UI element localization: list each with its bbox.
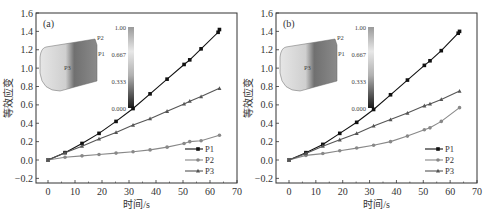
marker-circle (389, 140, 393, 144)
y-axis-label: 等效应变 (242, 78, 254, 118)
marker-square (188, 58, 192, 62)
y-tick-label: 0.2 (21, 136, 34, 147)
legend-marker-circle (196, 158, 200, 162)
colorbar (128, 27, 134, 108)
x-tick-label: 60 (205, 186, 215, 197)
x-tick-label: 40 (151, 186, 161, 197)
colorbar-tick-label: 0.000 (111, 105, 126, 112)
y-tick-label: 0.8 (261, 81, 274, 92)
y-tick-label: −0.2 (15, 173, 33, 184)
y-tick-label: 1.4 (261, 26, 274, 37)
marker-circle (338, 149, 342, 153)
marker-square (423, 64, 427, 68)
colorbar-tick-label: 0.333 (111, 78, 126, 85)
inset-point-label: P1 (98, 50, 105, 57)
legend-label: P1 (445, 144, 454, 154)
y-tick-label: 0.2 (261, 136, 274, 147)
legend-marker-square (436, 147, 440, 151)
x-tick-label: 70 (232, 186, 242, 197)
x-tick-label: 50 (178, 186, 188, 197)
y-tick-label: 1.6 (261, 8, 274, 19)
marker-circle (406, 134, 410, 138)
y-tick-label: −0.2 (255, 173, 273, 184)
marker-square (389, 93, 393, 97)
legend-label: P1 (205, 144, 214, 154)
colorbar (368, 27, 374, 108)
x-tick-label: 20 (97, 186, 107, 197)
colorbar-tick-label: 1.00 (355, 24, 366, 31)
y-tick-label: 1.0 (21, 63, 34, 74)
marker-triangle (458, 89, 462, 93)
x-tick-label: 0 (46, 186, 51, 197)
marker-circle (458, 106, 462, 110)
y-tick-label: 0.8 (21, 81, 34, 92)
marker-triangle (217, 86, 221, 90)
x-axis-label: 时间/s (363, 198, 390, 210)
inset-point-label: P1 (338, 50, 345, 57)
marker-circle (423, 128, 427, 132)
marker-square (182, 63, 186, 67)
x-axis-label: 时间/s (123, 198, 150, 210)
legend-label: P2 (205, 155, 214, 165)
y-tick-label: 1.2 (261, 44, 274, 55)
marker-circle (148, 148, 152, 152)
marker-circle (199, 139, 203, 143)
x-tick-label: 30 (365, 186, 375, 197)
marker-square (355, 121, 359, 125)
panel-label: (b) (283, 18, 295, 30)
x-tick-label: 50 (418, 186, 428, 197)
marker-circle (63, 155, 67, 159)
legend-marker-circle (436, 158, 440, 162)
legend-label: P3 (445, 166, 454, 176)
y-tick-label: 0.0 (261, 155, 274, 166)
legend-label: P2 (445, 155, 454, 165)
y-tick-label: 1.6 (21, 8, 34, 19)
marker-circle (218, 133, 222, 137)
marker-square (199, 47, 203, 51)
x-tick-label: 40 (391, 186, 401, 197)
marker-circle (97, 153, 101, 157)
x-tick-label: 60 (445, 186, 455, 197)
marker-square (428, 59, 432, 63)
marker-circle (114, 151, 118, 155)
marker-circle (80, 154, 84, 158)
marker-square (372, 108, 376, 112)
marker-circle (188, 140, 192, 144)
chart-panel-0: 010203040506070−0.20.00.20.40.60.81.01.2… (2, 8, 242, 211)
marker-square (218, 28, 222, 32)
y-tick-label: 1.2 (21, 44, 34, 55)
chart-canvas: 010203040506070−0.20.00.20.40.60.81.01.2… (0, 0, 494, 216)
x-tick-label: 70 (472, 186, 482, 197)
marker-square (114, 120, 118, 124)
y-tick-label: 0.6 (21, 99, 34, 110)
y-axis-label: 等效应变 (2, 78, 14, 118)
marker-square (439, 49, 443, 53)
y-tick-label: 0.4 (21, 118, 34, 129)
colorbar-tick-label: 0.667 (351, 51, 366, 58)
y-tick-label: 0.0 (21, 155, 34, 166)
x-tick-label: 30 (124, 186, 134, 197)
x-tick-label: 10 (70, 186, 80, 197)
marker-circle (439, 120, 443, 124)
marker-square (148, 92, 152, 96)
marker-circle (131, 150, 135, 154)
y-tick-label: 0.6 (261, 99, 274, 110)
x-tick-label: 0 (287, 186, 292, 197)
legend-marker-square (196, 147, 200, 151)
inset-point-label: P3 (304, 64, 311, 71)
x-tick-label: 20 (338, 186, 348, 197)
colorbar-tick-label: 0.667 (111, 51, 126, 58)
marker-square (131, 107, 135, 111)
inset-point-label: P2 (97, 34, 104, 41)
marker-square (97, 132, 101, 136)
series-line-P2 (289, 108, 460, 160)
x-tick-label: 10 (311, 186, 321, 197)
y-tick-label: 1.0 (261, 63, 274, 74)
marker-square (458, 30, 462, 34)
legend-label: P3 (205, 166, 214, 176)
chart-panel-1: 010203040506070−0.20.00.20.40.60.81.01.2… (242, 8, 482, 211)
marker-square (406, 78, 410, 82)
marker-circle (321, 152, 325, 156)
marker-circle (182, 142, 186, 146)
marker-square (338, 132, 342, 136)
